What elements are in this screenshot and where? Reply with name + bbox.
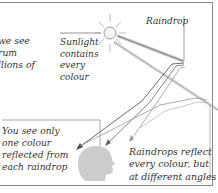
you-see-caption-line-3: reflected from	[2, 149, 69, 161]
reflect-caption-line-3: at different angles	[129, 171, 216, 183]
reflect-caption: Raindrops reflect every colour, but at d…	[129, 146, 216, 183]
left-caption: we see rum llions of	[0, 35, 35, 71]
reflect-caption-line-1: Raindrops reflect	[129, 146, 216, 158]
sunlight-caption-line-4: colour	[60, 72, 99, 84]
reflect-caption-line-2: every colour, but	[129, 158, 216, 170]
lower-drop-reflections	[80, 98, 208, 146]
raindrop-label: Raindrop	[146, 15, 188, 27]
you-see-caption-line-1: You see only	[2, 125, 69, 137]
head-silhouette-icon	[78, 146, 115, 181]
left-caption-line-3: llions of	[0, 59, 35, 71]
left-caption-line-1: we see	[0, 35, 35, 47]
light-beam-upper	[118, 36, 183, 61]
sunlight-caption: Sunlight contains every colour	[60, 37, 99, 83]
sunlight-caption-line-2: contains	[60, 49, 99, 61]
sunlight-caption-line-3: every	[60, 60, 99, 72]
light-beam-lower	[114, 42, 218, 110]
sunlight-caption-line-1: Sunlight	[60, 37, 99, 49]
arrowheads-upper	[76, 135, 134, 150]
you-see-caption-line-2: one colour	[2, 137, 69, 149]
you-see-caption: You see only one colour reflected from e…	[2, 125, 69, 173]
left-caption-line-2: rum	[0, 47, 35, 59]
you-see-caption-line-4: each raindrop	[2, 161, 69, 173]
